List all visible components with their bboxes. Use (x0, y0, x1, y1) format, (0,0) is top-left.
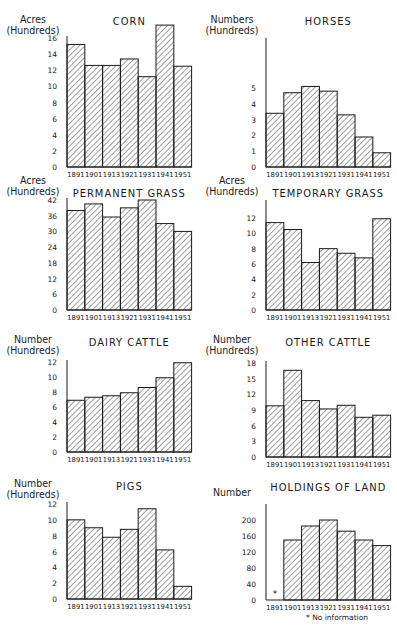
x-tick-label: 1931 (138, 171, 155, 179)
y-tick-label: 0 (52, 448, 57, 457)
y-tick-label: 15 (246, 375, 256, 384)
bar-1931 (138, 77, 156, 167)
y-tick-label: 4 (52, 131, 57, 140)
x-tick-label: 1931 (337, 604, 354, 612)
y-tick-label: 120 (242, 548, 257, 557)
x-tick-label: 1901 (85, 314, 102, 322)
y-tick-label: 6 (251, 422, 256, 431)
x-tick-label: 1941 (355, 171, 372, 179)
bar-1931 (337, 405, 355, 457)
bar-1891 (266, 406, 284, 457)
bar-1941 (355, 137, 373, 167)
y-tick-label: 2 (52, 147, 57, 156)
y-tick-label: 2 (251, 291, 256, 300)
x-tick-label: 1913 (103, 171, 120, 179)
bar-1941 (156, 25, 174, 167)
y-axis-label: Acres(Hundreds) (2, 175, 64, 197)
x-tick-label: 1931 (138, 314, 155, 322)
x-tick-label: 1921 (320, 604, 337, 612)
x-tick-label: 1951 (174, 314, 191, 322)
y-axis-label: Number(Hundreds) (2, 478, 64, 500)
y-tick-label: 10 (47, 82, 57, 91)
x-tick-label: 1941 (156, 456, 173, 464)
x-tick-label: 1941 (355, 461, 372, 469)
y-tick-label: 8 (52, 388, 57, 397)
chart-corn: 0246810121416189119011913192119311941195… (47, 25, 191, 179)
chart-title: PERMANENT GRASS (73, 187, 186, 200)
x-tick-label: 1941 (156, 314, 173, 322)
x-tick-label: 1913 (103, 314, 120, 322)
y-axis-label: Acres(Hundreds) (2, 14, 64, 36)
y-tick-label: 6 (52, 290, 57, 299)
chart-dairy-cattle: 0246810121891190119131921193119411951 (47, 358, 191, 464)
bar-1913 (103, 65, 121, 167)
y-tick-label: 30 (47, 227, 57, 236)
bar-1891 (266, 113, 284, 167)
x-tick-label: 1901 (85, 603, 102, 611)
x-tick-label: 1921 (121, 314, 138, 322)
bar-1901 (85, 397, 103, 452)
bar-1951 (373, 153, 391, 167)
y-tick-label: 12 (246, 214, 256, 223)
y-tick-label: 3 (251, 437, 256, 446)
x-tick-label: 1891 (67, 456, 84, 464)
bar-1941 (156, 224, 174, 310)
bar-1891 (67, 400, 85, 452)
y-tick-label: 200 (242, 516, 257, 525)
bar-1901 (85, 528, 103, 599)
x-tick-label: 1891 (266, 171, 283, 179)
chart-holdings-of-land: 04080120160200*1891190119131921193119411… (242, 504, 391, 622)
x-tick-label: 1913 (103, 456, 120, 464)
y-tick-label: 9 (251, 406, 256, 415)
x-tick-label: 1931 (138, 603, 155, 611)
y-tick-label: 6 (251, 260, 256, 269)
x-tick-label: 1931 (337, 314, 354, 322)
y-tick-label: 0 (251, 306, 256, 315)
x-tick-label: 1921 (320, 314, 337, 322)
bar-1941 (355, 417, 373, 457)
missing-marker: * (273, 589, 278, 599)
y-tick-label: 4 (251, 100, 256, 109)
bar-1891 (266, 223, 284, 310)
x-tick-label: 1951 (373, 171, 390, 179)
x-tick-label: 1951 (373, 461, 390, 469)
chart-title: TEMPORARY GRASS (273, 187, 385, 200)
y-tick-label: 18 (246, 359, 256, 368)
x-tick-label: 1941 (156, 603, 173, 611)
bar-1931 (337, 253, 355, 310)
x-tick-label: 1891 (67, 171, 84, 179)
x-tick-label: 1921 (121, 603, 138, 611)
bar-1931 (138, 509, 156, 599)
x-tick-label: 1891 (266, 604, 283, 612)
y-tick-label: 12 (47, 358, 57, 367)
y-tick-label: 8 (251, 245, 256, 254)
y-tick-label: 1 (251, 147, 256, 156)
bar-1921 (120, 393, 138, 452)
bar-1921 (120, 529, 138, 599)
y-tick-label: 8 (52, 99, 57, 108)
y-tick-label: 6 (52, 115, 57, 124)
x-tick-label: 1891 (67, 314, 84, 322)
y-tick-label: 10 (47, 373, 57, 382)
chart-canvas: 0246810121416189119011913192119311941195… (0, 0, 397, 628)
y-tick-label: 5 (251, 84, 256, 93)
x-tick-label: 1921 (320, 171, 337, 179)
y-tick-label: 10 (47, 516, 57, 525)
x-tick-label: 1951 (373, 314, 390, 322)
bar-1921 (319, 91, 337, 167)
y-tick-label: 2 (52, 579, 57, 588)
y-tick-label: 160 (242, 532, 257, 541)
y-tick-label: 0 (52, 163, 57, 172)
bar-1951 (174, 231, 192, 310)
chart-pigs: 0246810121891190119131921193119411951 (47, 500, 191, 611)
y-tick-label: 10 (246, 229, 256, 238)
y-tick-label: 0 (251, 596, 256, 605)
y-tick-label: 80 (246, 564, 256, 573)
x-tick-label: 1901 (85, 456, 102, 464)
bar-1913 (103, 217, 121, 310)
y-tick-label: 40 (246, 580, 256, 589)
x-tick-label: 1901 (284, 461, 301, 469)
y-tick-label: 14 (47, 50, 57, 59)
x-tick-label: 1931 (337, 461, 354, 469)
chart-title: CORN (113, 15, 146, 28)
